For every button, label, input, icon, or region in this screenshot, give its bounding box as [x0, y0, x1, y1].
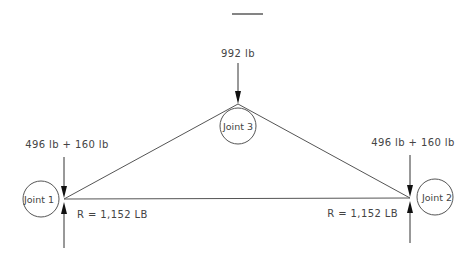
right-top-chord — [238, 104, 410, 198]
joint-1-marker: Joint 1 — [23, 181, 59, 217]
joint-2-label: Joint 2 — [421, 192, 452, 203]
truss-diagram: 992 lb Joint 3 496 lb + 160 lb R = 1,152… — [0, 0, 474, 261]
right-reaction-arrow-icon — [407, 201, 413, 243]
bottom-chord — [64, 198, 410, 199]
left-support-load-arrow-icon — [61, 157, 67, 198]
joint-1-label: Joint 1 — [23, 194, 54, 205]
joint-3-marker: Joint 3 — [220, 108, 256, 144]
right-support-load-arrow-icon — [407, 155, 413, 197]
left-support-load-label: 496 lb + 160 lb — [25, 139, 109, 150]
left-top-chord — [64, 104, 238, 199]
joint-2-marker: Joint 2 — [417, 179, 453, 215]
joint-3-label: Joint 3 — [222, 121, 253, 132]
left-reaction-label: R = 1,152 LB — [77, 209, 148, 220]
apex-load-label: 992 lb — [221, 48, 255, 59]
right-support-load-label: 496 lb + 160 lb — [371, 137, 455, 148]
left-reaction-arrow-icon — [61, 202, 67, 248]
apex-load-arrow-icon — [235, 63, 241, 104]
right-reaction-label: R = 1,152 LB — [327, 208, 398, 219]
